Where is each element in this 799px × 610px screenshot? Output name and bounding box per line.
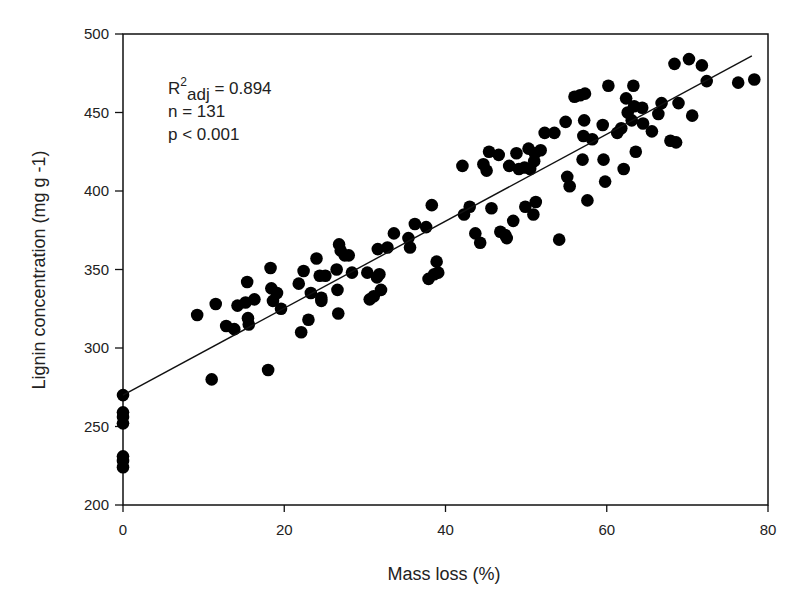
data-point [581,194,594,207]
y-tick-label: 450 [84,104,109,121]
data-point [646,125,659,138]
r2-value: = 0.894 [210,79,272,98]
data-point [474,237,487,250]
data-point [553,233,566,246]
data-point [559,116,572,129]
x-tick-label: 40 [437,521,454,538]
scatter-chart: 200250300350400450500 020406080 Mass los… [0,0,799,610]
y-tick-label: 200 [84,496,109,513]
data-point [330,263,343,276]
data-point [485,202,498,215]
data-point [629,145,642,158]
data-point [597,153,610,166]
x-tick-label: 20 [276,521,293,538]
data-point [209,298,222,311]
x-axis-ticks: 020406080 [119,505,777,538]
data-point [579,87,592,100]
data-point [425,199,438,212]
data-point [264,262,277,275]
data-point [228,323,241,336]
data-point [456,160,469,173]
y-tick-label: 300 [84,339,109,356]
data-point [686,109,699,122]
data-point [492,149,505,162]
data-point [373,268,386,281]
n-annotation: n = 131 [168,102,225,121]
data-point [117,417,130,430]
x-tick-label: 80 [760,521,777,538]
data-point [292,277,305,290]
data-point [302,313,315,326]
y-axis-ticks: 200250300350400450500 [84,25,123,513]
x-axis-title: Mass loss (%) [387,564,500,584]
data-point [295,326,308,339]
data-point [271,287,284,300]
data-point [205,373,218,386]
data-point [346,266,359,279]
data-point [534,144,547,157]
data-point [510,147,523,160]
data-point [315,295,328,308]
data-point [117,389,130,402]
data-point [191,309,204,322]
data-point [696,59,709,72]
data-point [748,73,761,86]
data-point [432,266,445,279]
data-point [683,53,696,66]
data-point [602,80,615,93]
data-point [430,255,443,268]
data-point [670,136,683,149]
data-point [297,265,310,278]
data-point [563,180,576,193]
data-point [627,80,640,93]
p-annotation: p < 0.001 [168,125,239,144]
data-point [530,196,543,209]
data-point [599,175,612,188]
x-tick-label: 60 [598,521,615,538]
data-point [275,302,288,315]
y-axis-title: Lignin concentration (mg g -1) [29,150,49,389]
data-point [507,215,520,228]
data-point [596,119,609,132]
data-point [248,293,261,306]
data-point [617,163,630,176]
data-point [319,269,332,282]
data-point [576,153,589,166]
data-point [375,284,388,297]
data-point [241,276,254,289]
data-point [548,127,561,140]
data-point [342,249,355,262]
data-point [409,218,422,231]
data-point [388,227,401,240]
y-tick-label: 500 [84,25,109,42]
x-tick-label: 0 [119,521,127,538]
data-point [117,461,130,474]
data-point [578,114,591,127]
data-point [262,364,275,377]
data-point [668,58,681,71]
data-point [500,232,513,245]
data-point [652,108,665,121]
r2-annotation: R2adj = 0.894 [168,75,272,104]
data-point [732,76,745,89]
y-tick-label: 350 [84,261,109,278]
data-point [332,307,345,320]
data-point [310,252,323,265]
y-tick-label: 400 [84,182,109,199]
data-point [527,208,540,221]
y-tick-label: 250 [84,418,109,435]
r2-label: R [168,79,180,98]
data-point [331,284,344,297]
data-point [480,164,493,177]
